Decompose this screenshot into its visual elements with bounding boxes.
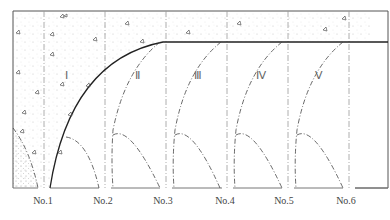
region-label-4: Ⅳ xyxy=(256,69,266,82)
section-label-3: No.3 xyxy=(153,195,173,206)
section-label-6: No.6 xyxy=(336,195,356,206)
region-label-1: Ⅰ xyxy=(65,69,68,82)
region-label-3: Ⅲ xyxy=(194,69,202,82)
figure-caption xyxy=(60,212,360,218)
section-label-4: No.4 xyxy=(215,195,235,206)
section-label-5: No.5 xyxy=(274,195,294,206)
region-label-2: Ⅱ xyxy=(135,69,140,82)
section-label-2: No.2 xyxy=(93,195,113,206)
region-label-5: Ⅴ xyxy=(315,69,323,82)
diagram-drawing xyxy=(0,0,390,220)
soil-mass xyxy=(13,11,372,188)
excavation-section-diagram: Ⅰ Ⅱ Ⅲ Ⅳ Ⅴ No.1 No.2 No.3 No.4 No.5 No.6 xyxy=(0,0,390,220)
section-label-1: No.1 xyxy=(33,195,53,206)
